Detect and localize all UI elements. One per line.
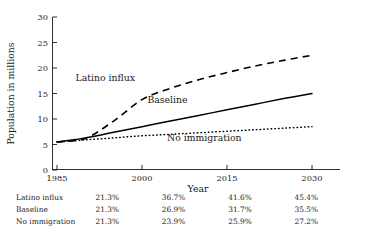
y-tick-label: 5	[43, 140, 48, 150]
series-annotation-no-immigration: No immigration	[167, 132, 242, 143]
table-cell-value: 21.3%	[95, 205, 161, 217]
table-cell-value: 36.7%	[162, 193, 228, 205]
y-tick-labels: 30 25 20 15 10 5 0	[38, 12, 48, 175]
y-tick-label: 30	[38, 12, 48, 22]
y-tick-label: 25	[38, 38, 48, 48]
y-tick-label: 10	[38, 114, 48, 124]
table-row: Latino influx21.3%36.7%41.6%45.4%	[16, 193, 361, 205]
table-row-label: Baseline	[16, 205, 95, 217]
x-axis-ticks	[57, 165, 312, 170]
table-cell-value: 27.2%	[295, 217, 361, 229]
table-cell-value: 21.3%	[95, 217, 161, 229]
chart-figure: 30 25 20 15 10 5 0 1985 2000 2015 2030 P…	[0, 0, 368, 235]
table-cell-value: 25.9%	[228, 217, 294, 229]
table-cell-value: 21.3%	[95, 193, 161, 205]
table-cell-value: 45.4%	[295, 193, 361, 205]
y-axis-ticks	[53, 17, 58, 170]
table-row: Baseline21.3%26.9%31.7%35.5%	[16, 205, 361, 217]
data-table-wrapper: Latino influx21.3%36.7%41.6%45.4%Baselin…	[16, 193, 361, 229]
table-cell-value: 26.9%	[162, 205, 228, 217]
x-tick-label: 2000	[132, 173, 153, 183]
table-cell-value: 35.5%	[295, 205, 361, 217]
table-cell-value: 41.6%	[228, 193, 294, 205]
x-tick-label: 2030	[302, 173, 323, 183]
table-row: No immigration21.3%23.9%25.9%27.2%	[16, 217, 361, 229]
table-cell-value: 23.9%	[162, 217, 228, 229]
y-tick-label: 20	[38, 63, 48, 73]
line-chart-plot: 30 25 20 15 10 5 0 1985 2000 2015 2030 P…	[0, 0, 368, 192]
series-annotation-baseline: Baseline	[147, 94, 188, 105]
x-axis-title: Year	[187, 183, 209, 192]
table-cell-value: 31.7%	[228, 205, 294, 217]
scenario-percentage-table: Latino influx21.3%36.7%41.6%45.4%Baselin…	[16, 193, 361, 229]
y-axis-title: Population in millions	[5, 42, 16, 144]
x-tick-label: 2015	[217, 173, 238, 183]
table-row-label: Latino influx	[16, 193, 95, 205]
table-row-label: No immigration	[16, 217, 95, 229]
x-tick-label: 1985	[47, 173, 68, 183]
series-annotation-latino-influx: Latino influx	[76, 72, 136, 83]
x-tick-labels: 1985 2000 2015 2030	[47, 173, 323, 183]
y-tick-label: 15	[38, 89, 48, 99]
